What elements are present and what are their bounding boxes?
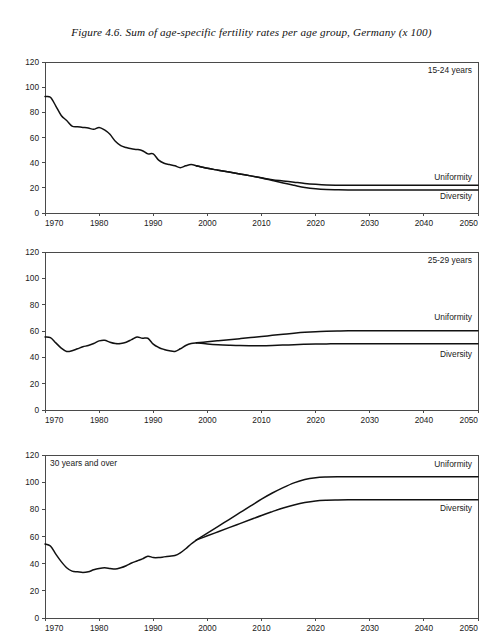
series-group bbox=[45, 477, 478, 573]
x-axis: 197019801990200020102020203020402050 bbox=[45, 213, 478, 228]
x-axis: 197019801990200020102020203020402050 bbox=[45, 618, 478, 633]
series-label-diversity: Diversity bbox=[440, 191, 473, 201]
x-tick-label: 2020 bbox=[306, 623, 325, 633]
series-line-diversity bbox=[197, 500, 478, 540]
y-tick-label: 0 bbox=[34, 208, 39, 218]
series-group bbox=[45, 96, 478, 190]
y-tick-label: 60 bbox=[30, 326, 40, 336]
panel-label: 15-24 years bbox=[428, 65, 472, 75]
x-tick-label: 2030 bbox=[361, 415, 380, 425]
x-tick-label: 2050 bbox=[460, 415, 479, 425]
panel-label: 30 years and over bbox=[50, 458, 117, 468]
y-tick-label: 40 bbox=[30, 352, 40, 362]
y-axis: 020406080100120 bbox=[25, 57, 45, 218]
series-line-diversity bbox=[197, 343, 478, 346]
x-tick-label: 2000 bbox=[198, 415, 217, 425]
y-tick-label: 60 bbox=[30, 133, 40, 143]
x-tick-label: 2040 bbox=[415, 415, 434, 425]
x-tick-label: 1970 bbox=[45, 218, 64, 228]
y-tick-label: 80 bbox=[30, 504, 40, 514]
x-tick-label: 2030 bbox=[361, 218, 380, 228]
y-tick-label: 100 bbox=[25, 477, 39, 487]
y-tick-label: 120 bbox=[25, 57, 39, 67]
series-line-uniformity bbox=[197, 331, 478, 343]
panel-label: 25-29 years bbox=[428, 255, 472, 265]
series-label-diversity: Diversity bbox=[440, 349, 473, 359]
x-tick-label: 2010 bbox=[252, 218, 271, 228]
y-tick-label: 100 bbox=[25, 82, 39, 92]
series-line-historical bbox=[45, 540, 197, 573]
y-tick-label: 120 bbox=[25, 247, 39, 257]
chart-panel-25-29: 0204060801001201970198019902000201020202… bbox=[0, 245, 503, 430]
x-axis: 197019801990200020102020203020402050 bbox=[45, 410, 478, 425]
series-group bbox=[45, 331, 478, 352]
series-label-uniformity: Uniformity bbox=[434, 312, 473, 322]
y-tick-label: 120 bbox=[25, 450, 39, 460]
series-label-diversity: Diversity bbox=[440, 503, 473, 513]
x-tick-label: 2020 bbox=[306, 218, 325, 228]
y-tick-label: 20 bbox=[30, 586, 40, 596]
x-tick-label: 2010 bbox=[252, 623, 271, 633]
x-tick-label: 2030 bbox=[361, 623, 380, 633]
y-tick-label: 100 bbox=[25, 273, 39, 283]
series-line-uniformity bbox=[197, 477, 478, 540]
chart-panel-15-24: 0204060801001201970198019902000201020202… bbox=[0, 55, 503, 230]
series-label-uniformity: Uniformity bbox=[434, 459, 473, 469]
x-tick-label: 1990 bbox=[144, 415, 163, 425]
y-tick-label: 60 bbox=[30, 532, 40, 542]
figure-title: Figure 4.6. Sum of age-specific fertilit… bbox=[0, 26, 503, 38]
y-tick-label: 80 bbox=[30, 107, 40, 117]
y-tick-label: 0 bbox=[34, 405, 39, 415]
x-tick-label: 2050 bbox=[460, 218, 479, 228]
chart-svg: 0204060801001201970198019902000201020202… bbox=[0, 448, 503, 634]
y-tick-label: 20 bbox=[30, 379, 40, 389]
y-tick-label: 0 bbox=[34, 613, 39, 623]
x-tick-label: 2040 bbox=[415, 218, 434, 228]
x-tick-label: 2000 bbox=[198, 218, 217, 228]
chart-svg: 0204060801001201970198019902000201020202… bbox=[0, 55, 503, 230]
x-tick-label: 2050 bbox=[460, 623, 479, 633]
chart-panel-30-plus: 0204060801001201970198019902000201020202… bbox=[0, 448, 503, 634]
plot-frame bbox=[45, 455, 478, 618]
x-tick-label: 2010 bbox=[252, 415, 271, 425]
y-tick-label: 40 bbox=[30, 559, 40, 569]
figure-container: Figure 4.6. Sum of age-specific fertilit… bbox=[0, 0, 503, 634]
series-label-uniformity: Uniformity bbox=[434, 172, 473, 182]
x-tick-label: 1980 bbox=[90, 623, 109, 633]
x-tick-label: 1990 bbox=[144, 623, 163, 633]
series-line-historical bbox=[45, 96, 197, 167]
x-tick-label: 1980 bbox=[90, 218, 109, 228]
x-tick-label: 2000 bbox=[198, 623, 217, 633]
x-tick-label: 1970 bbox=[45, 415, 64, 425]
chart-svg: 0204060801001201970198019902000201020202… bbox=[0, 245, 503, 430]
y-axis: 020406080100120 bbox=[25, 450, 45, 623]
x-tick-label: 2020 bbox=[306, 415, 325, 425]
y-tick-label: 80 bbox=[30, 300, 40, 310]
y-tick-label: 40 bbox=[30, 158, 40, 168]
series-labels: UniformityDiversity bbox=[434, 312, 473, 359]
x-tick-label: 1980 bbox=[90, 415, 109, 425]
series-line-historical bbox=[45, 337, 197, 352]
x-tick-label: 1990 bbox=[144, 218, 163, 228]
series-labels: UniformityDiversity bbox=[434, 459, 473, 512]
y-tick-label: 20 bbox=[30, 183, 40, 193]
y-axis: 020406080100120 bbox=[25, 247, 45, 415]
series-labels: UniformityDiversity bbox=[434, 172, 473, 201]
x-tick-label: 1970 bbox=[45, 623, 64, 633]
x-tick-label: 2040 bbox=[415, 623, 434, 633]
